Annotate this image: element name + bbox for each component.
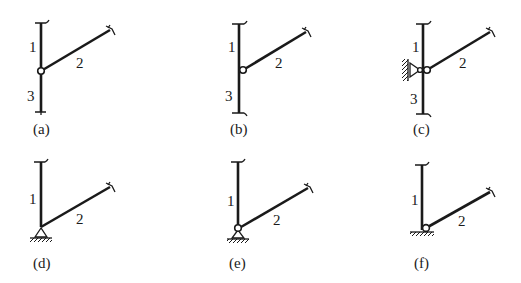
hinge-icon: [240, 67, 247, 74]
cut-end-icon: [416, 114, 431, 117]
hinge-icon: [423, 225, 430, 232]
member-label-1: 1: [29, 191, 37, 207]
caption-e: (e): [229, 255, 246, 272]
member-label-1: 1: [227, 193, 235, 209]
cut-end-icon: [486, 27, 495, 37]
member-label-1: 1: [228, 39, 236, 55]
member-label-2: 2: [459, 55, 467, 71]
caption-f: (f): [414, 255, 429, 272]
member-label-3: 3: [225, 88, 233, 104]
member-label-2: 2: [275, 55, 283, 71]
support-pin-icon: [418, 68, 423, 73]
hinge-icon: [424, 67, 431, 74]
cut-end-icon: [106, 182, 115, 192]
member-label-1: 1: [411, 192, 419, 208]
panel-a: [35, 20, 115, 115]
member-label-1: 1: [29, 39, 37, 55]
cut-end-icon: [304, 183, 313, 193]
cut-end-icon: [35, 112, 46, 115]
cut-end-icon: [415, 162, 429, 165]
caption-a: (a): [33, 121, 50, 138]
panel-b: [232, 21, 311, 116]
member-label-2: 2: [273, 212, 281, 228]
cut-end-icon: [302, 27, 311, 37]
cut-end-icon: [35, 20, 49, 23]
caption-c: (c): [413, 121, 430, 138]
structural-diagrams: 1 2 3 (a) 1 2 3 (b) 1 2 3 (c): [0, 0, 521, 283]
panel-e: [227, 159, 313, 243]
member-label-2: 2: [76, 211, 84, 227]
caption-d: (d): [33, 255, 51, 272]
ground-support-icon: [410, 232, 434, 236]
pin-support-icon: [30, 228, 52, 242]
member-label-3: 3: [27, 88, 35, 104]
cut-end-icon: [231, 159, 245, 162]
hinge-icon: [235, 225, 242, 232]
member-label-2: 2: [76, 55, 84, 71]
cut-end-icon: [232, 113, 247, 116]
cut-end-icon: [34, 159, 48, 162]
panel-d: [30, 159, 115, 242]
member-label-2: 2: [458, 213, 466, 229]
member-label-1: 1: [412, 39, 420, 55]
cut-end-icon: [416, 21, 431, 24]
cut-end-icon: [106, 25, 115, 35]
hinge-icon: [38, 68, 45, 75]
caption-b: (b): [230, 121, 248, 138]
cut-end-icon: [232, 21, 247, 24]
panel-f: [410, 162, 495, 236]
member-label-3: 3: [410, 91, 418, 107]
